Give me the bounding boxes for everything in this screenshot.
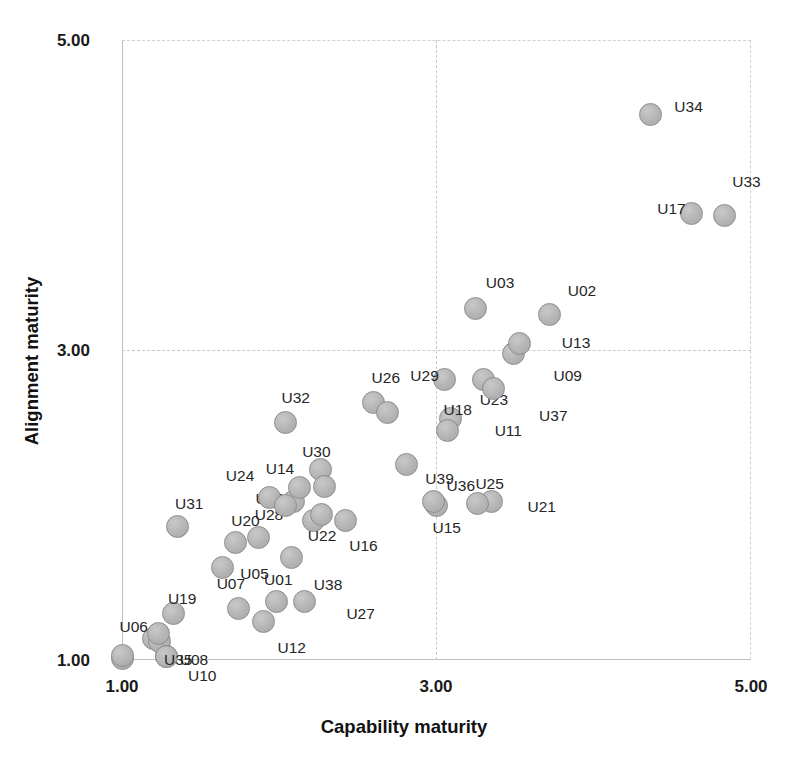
data-point-label: U26 bbox=[372, 370, 400, 386]
gridline-x-3 bbox=[436, 40, 437, 660]
data-point-label: U32 bbox=[282, 390, 310, 406]
data-point-marker bbox=[274, 494, 297, 517]
data-point-marker bbox=[310, 503, 333, 526]
data-point-marker bbox=[508, 332, 531, 355]
y-tick-1: 1.00 bbox=[28, 652, 90, 669]
data-point-label: U02 bbox=[568, 283, 596, 299]
data-point-label: U19 bbox=[168, 591, 196, 607]
data-point-label: U07 bbox=[217, 576, 245, 592]
data-point-label: U03 bbox=[486, 275, 514, 291]
data-point-marker bbox=[111, 644, 134, 667]
data-point-marker bbox=[436, 419, 459, 442]
data-point-label: U27 bbox=[346, 606, 374, 622]
data-point-marker bbox=[713, 204, 736, 227]
data-point-marker bbox=[224, 531, 247, 554]
data-point-label: U34 bbox=[674, 99, 702, 115]
data-point-label: U39 bbox=[425, 471, 453, 487]
data-point-marker bbox=[293, 590, 316, 613]
x-tick-1: 1.00 bbox=[82, 678, 162, 695]
data-point-label: U10 bbox=[188, 668, 216, 684]
data-point-label: U12 bbox=[278, 640, 306, 656]
data-point-label: U35 bbox=[164, 652, 192, 668]
data-point-marker bbox=[166, 515, 189, 538]
data-point-label: U33 bbox=[732, 174, 760, 190]
data-point-label: U15 bbox=[433, 520, 461, 536]
data-point-label: U21 bbox=[528, 499, 556, 515]
data-point-marker bbox=[313, 475, 336, 498]
data-point-marker bbox=[538, 303, 561, 326]
data-point-label: U11 bbox=[495, 423, 522, 439]
data-point-marker bbox=[639, 103, 662, 126]
data-point-marker bbox=[252, 610, 275, 633]
data-point-label: U09 bbox=[554, 368, 582, 384]
y-axis-title: Alignment maturity bbox=[21, 211, 43, 511]
x-tick-3: 3.00 bbox=[396, 678, 476, 695]
data-point-label: U38 bbox=[314, 577, 342, 593]
data-point-label: U06 bbox=[119, 619, 147, 635]
data-point-label: U14 bbox=[266, 461, 294, 477]
data-point-marker bbox=[334, 509, 357, 532]
data-point-label: U30 bbox=[302, 444, 330, 460]
data-point-marker bbox=[247, 526, 270, 549]
data-point-marker bbox=[482, 377, 505, 400]
data-point-label: U31 bbox=[175, 496, 203, 512]
y-tick-5: 5.00 bbox=[28, 32, 90, 49]
data-point-marker bbox=[464, 297, 487, 320]
x-axis-title: Capability maturity bbox=[0, 716, 808, 738]
data-point-label: U16 bbox=[349, 538, 377, 554]
data-point-marker bbox=[280, 546, 303, 569]
scatter-chart: 5.00 3.00 1.00 1.00 3.00 5.00 Capability… bbox=[0, 0, 808, 769]
data-point-label: U22 bbox=[308, 528, 336, 544]
data-point-label: U24 bbox=[226, 468, 254, 484]
x-tick-5: 5.00 bbox=[711, 678, 791, 695]
data-point-marker bbox=[147, 622, 170, 645]
data-point-label: U17 bbox=[657, 201, 685, 217]
data-point-marker bbox=[265, 590, 288, 613]
data-point-marker bbox=[395, 453, 418, 476]
data-point-label: U13 bbox=[562, 335, 590, 351]
data-point-marker bbox=[376, 401, 399, 424]
data-point-marker bbox=[227, 597, 250, 620]
plot-area: U01U02U03U04U05U06U07U08U09U10U11U12U13U… bbox=[122, 40, 751, 660]
data-point-label: U25 bbox=[475, 476, 503, 492]
data-point-label: U37 bbox=[539, 408, 567, 424]
data-point-label: U18 bbox=[444, 402, 472, 418]
data-point-marker bbox=[274, 411, 297, 434]
data-point-marker bbox=[466, 492, 489, 515]
data-point-label: U29 bbox=[410, 368, 438, 384]
